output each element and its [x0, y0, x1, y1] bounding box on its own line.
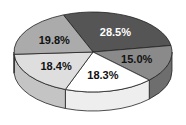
- slice-label: 15.0%: [121, 53, 152, 65]
- slice-label: 18.4%: [40, 60, 71, 72]
- slice-label: 28.5%: [100, 26, 131, 38]
- slice-label: 19.8%: [39, 34, 70, 46]
- pie-chart: 28.5%15.0%18.3%18.4%19.8%: [0, 0, 186, 125]
- slice-label: 18.3%: [87, 69, 118, 81]
- pie-chart-svg: 28.5%15.0%18.3%18.4%19.8%: [0, 0, 186, 125]
